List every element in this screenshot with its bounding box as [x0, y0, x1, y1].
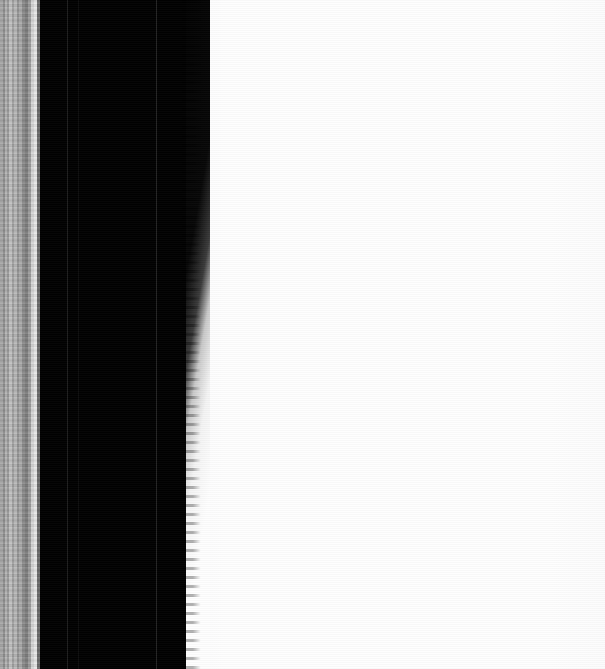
page-field-noise	[203, 0, 605, 669]
left-band-strip	[0, 0, 40, 669]
scan-canvas	[0, 0, 605, 669]
white-page-field	[203, 0, 605, 669]
band-14	[37, 0, 40, 669]
dark-gutter-block	[38, 0, 206, 669]
